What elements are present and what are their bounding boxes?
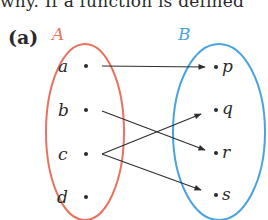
- set-b-label: B: [177, 24, 191, 44]
- element-q: q: [222, 98, 233, 118]
- element-d: d: [57, 187, 68, 207]
- set-a-label: A: [50, 24, 64, 44]
- set-a-elements: a b c d: [57, 56, 88, 207]
- point-d: [84, 195, 88, 199]
- element-p: p: [222, 56, 233, 76]
- point-b: [84, 108, 88, 112]
- element-s: s: [222, 184, 231, 204]
- point-q: [214, 108, 218, 112]
- element-c: c: [58, 144, 68, 164]
- element-b: b: [58, 100, 69, 120]
- set-b-elements: p q r s: [214, 56, 233, 204]
- part-label: (a): [8, 26, 38, 48]
- point-r: [214, 151, 218, 155]
- point-s: [214, 193, 218, 197]
- element-r: r: [222, 142, 231, 162]
- point-a: [84, 64, 88, 68]
- arrow-b-to-r: [102, 111, 205, 150]
- point-c: [84, 152, 88, 156]
- mapping-diagram: (a) A B a b c d p q r s: [0, 0, 268, 220]
- set-b-ellipse: [173, 44, 265, 220]
- element-a: a: [58, 56, 68, 76]
- arrow-c-to-q: [102, 114, 201, 154]
- point-p: [214, 65, 218, 69]
